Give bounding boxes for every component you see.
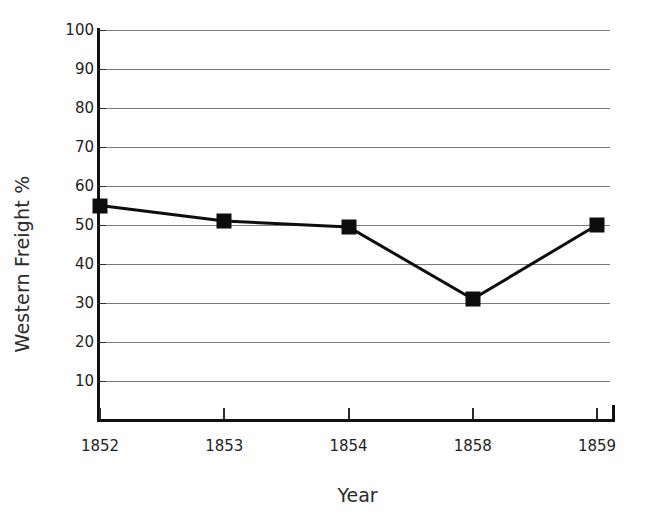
- y-axis-tick-labels: 100908070605040302010: [50, 30, 94, 420]
- x-tick-mark: [348, 408, 350, 419]
- y-tick-label: 10: [56, 372, 94, 390]
- y-tick-label: 60: [56, 177, 94, 195]
- chart-figure: Western Freight % 100908070605040302010 …: [0, 0, 654, 528]
- data-point-marker: [590, 218, 605, 233]
- y-tick-mark: [97, 108, 106, 109]
- x-axis-tick-labels: 18521853185418581859: [100, 437, 615, 463]
- x-axis-title: Year: [100, 484, 615, 506]
- y-tick-mark: [97, 225, 106, 226]
- y-tick-mark: [97, 303, 106, 304]
- data-line: [100, 30, 615, 420]
- x-axis-ticks: [100, 419, 615, 431]
- y-tick-label: 40: [56, 255, 94, 273]
- y-tick-label: 70: [56, 138, 94, 156]
- y-tick-label: 20: [56, 333, 94, 351]
- x-tick-mark: [99, 408, 101, 419]
- x-tick-mark: [596, 408, 598, 419]
- y-tick-mark: [97, 147, 106, 148]
- y-axis-title: Western Freight %: [0, 0, 44, 528]
- y-tick-label: 90: [56, 60, 94, 78]
- y-tick-label: 100: [56, 21, 94, 39]
- y-tick-label: 30: [56, 294, 94, 312]
- x-tick-label: 1859: [552, 437, 642, 455]
- x-tick-label: 1854: [304, 437, 394, 455]
- x-tick-label: 1858: [428, 437, 518, 455]
- x-tick-mark: [223, 408, 225, 419]
- x-tick-label: 1852: [55, 437, 145, 455]
- x-tick-mark: [472, 408, 474, 419]
- data-point-marker: [341, 219, 356, 234]
- y-tick-mark: [97, 186, 106, 187]
- y-tick-mark: [97, 69, 106, 70]
- y-tick-mark: [97, 264, 106, 265]
- y-tick-label: 50: [56, 216, 94, 234]
- y-tick-mark: [97, 342, 106, 343]
- plot-area: [100, 30, 615, 420]
- y-tick-mark: [97, 381, 106, 382]
- y-tick-label: 80: [56, 99, 94, 117]
- data-point-marker: [93, 198, 108, 213]
- data-point-marker: [217, 214, 232, 229]
- data-point-marker: [465, 292, 480, 307]
- y-tick-mark: [97, 30, 106, 31]
- x-tick-label: 1853: [179, 437, 269, 455]
